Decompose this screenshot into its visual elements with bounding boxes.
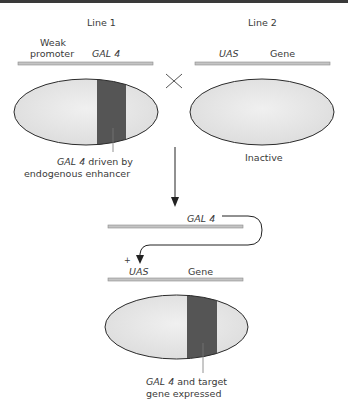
line1-annotation-rest: driven by <box>85 156 133 167</box>
progeny-annotation-gal4: GAL 4 <box>146 376 174 387</box>
progeny-gal4-dna-bar <box>108 225 243 228</box>
line2-gene-label: Gene <box>270 48 295 59</box>
line1-dna-bar <box>18 62 153 65</box>
line1-annotation-gal4: GAL 4 <box>57 156 85 167</box>
plus-sign: + <box>124 255 131 266</box>
line2-embryo <box>190 79 334 145</box>
promoter-label: promoter <box>30 48 74 59</box>
progeny-annotation-rest: and target <box>174 376 227 387</box>
diagram-graphics <box>0 0 348 418</box>
line2-status: Inactive <box>245 152 283 163</box>
cross-icon <box>166 74 182 88</box>
progeny-uas-dna-bar <box>108 278 243 281</box>
progeny-gene-label: Gene <box>188 266 213 277</box>
weak-label: Weak <box>40 37 66 48</box>
progeny-annotation-line2: gene expressed <box>146 388 221 399</box>
progeny-annotation: GAL 4 and target <box>146 376 227 387</box>
line2-title: Line 2 <box>248 17 277 28</box>
progeny-uas-label: UAS <box>129 266 148 277</box>
line1-gal4-label: GAL 4 <box>92 48 120 59</box>
line1-title: Line 1 <box>87 17 116 28</box>
line1-embryo <box>14 70 158 160</box>
progeny-gal4-label: GAL 4 <box>187 213 215 224</box>
down-arrow-icon <box>171 147 179 207</box>
line2-dna-bar <box>195 62 330 65</box>
line2-uas-label: UAS <box>219 48 238 59</box>
line1-annotation: GAL 4 driven by <box>57 156 133 167</box>
progeny-embryo <box>105 290 248 373</box>
line1-annotation-line2: endogenous enhancer <box>24 168 130 179</box>
